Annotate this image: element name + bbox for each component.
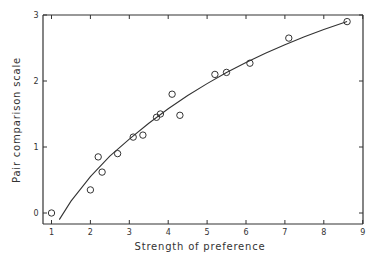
data-point [286, 35, 292, 41]
x-tick-label: 5 [205, 228, 210, 237]
data-point [95, 154, 101, 160]
y-tick-label: 0 [33, 209, 38, 218]
data-point [177, 112, 183, 118]
data-point [212, 71, 218, 77]
x-tick-label: 2 [88, 228, 93, 237]
x-tick-label: 1 [49, 228, 54, 237]
x-tick-label: 3 [127, 228, 132, 237]
fitted-curve [59, 22, 347, 220]
scatter-chart: 123456789 0123 Strength of preference Pa… [0, 0, 375, 266]
x-axis-label: Strength of preference [135, 241, 266, 252]
x-tick-label: 6 [243, 228, 248, 237]
x-tick-label: 8 [321, 228, 326, 237]
x-tick-label: 7 [282, 228, 287, 237]
data-point [48, 210, 54, 216]
y-tick-label: 3 [33, 11, 38, 20]
y-tick-label: 2 [33, 77, 38, 86]
data-point [140, 132, 146, 138]
data-point [99, 169, 105, 175]
data-points [48, 18, 350, 216]
x-tick-label: 9 [360, 228, 365, 237]
y-tick-label: 1 [33, 143, 38, 152]
data-point [169, 91, 175, 97]
x-ticks: 123456789 [49, 15, 365, 237]
data-point [114, 150, 120, 156]
x-tick-label: 4 [166, 228, 171, 237]
fit-line [59, 22, 347, 220]
y-axis-label: Pair comparison scale [11, 57, 22, 183]
data-point [87, 187, 93, 193]
